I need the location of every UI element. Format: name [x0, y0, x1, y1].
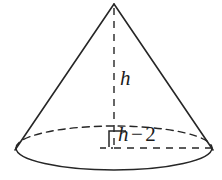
radius-label-operator: − — [129, 122, 145, 146]
radius-label-variable: h — [118, 122, 129, 146]
radius-label: h−2 — [118, 124, 156, 145]
cone-left-slant-edge — [15, 4, 114, 150]
cone-diagram: h h−2 — [0, 0, 222, 180]
height-label: h — [120, 68, 131, 89]
radius-label-value: 2 — [145, 122, 156, 146]
base-ellipse-visible-arc — [16, 148, 212, 170]
cone-figure-svg — [0, 0, 222, 180]
